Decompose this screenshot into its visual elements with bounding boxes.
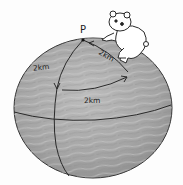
- left-distance-label: 2km: [33, 62, 50, 73]
- sphere-drawing: P 2km 2km 2km: [0, 0, 183, 185]
- point-p-label: P: [80, 24, 86, 35]
- arc-distance-label: 2km: [84, 96, 100, 105]
- illustration-canvas: P 2km 2km 2km: [0, 0, 183, 185]
- point-p-dot: [81, 38, 84, 41]
